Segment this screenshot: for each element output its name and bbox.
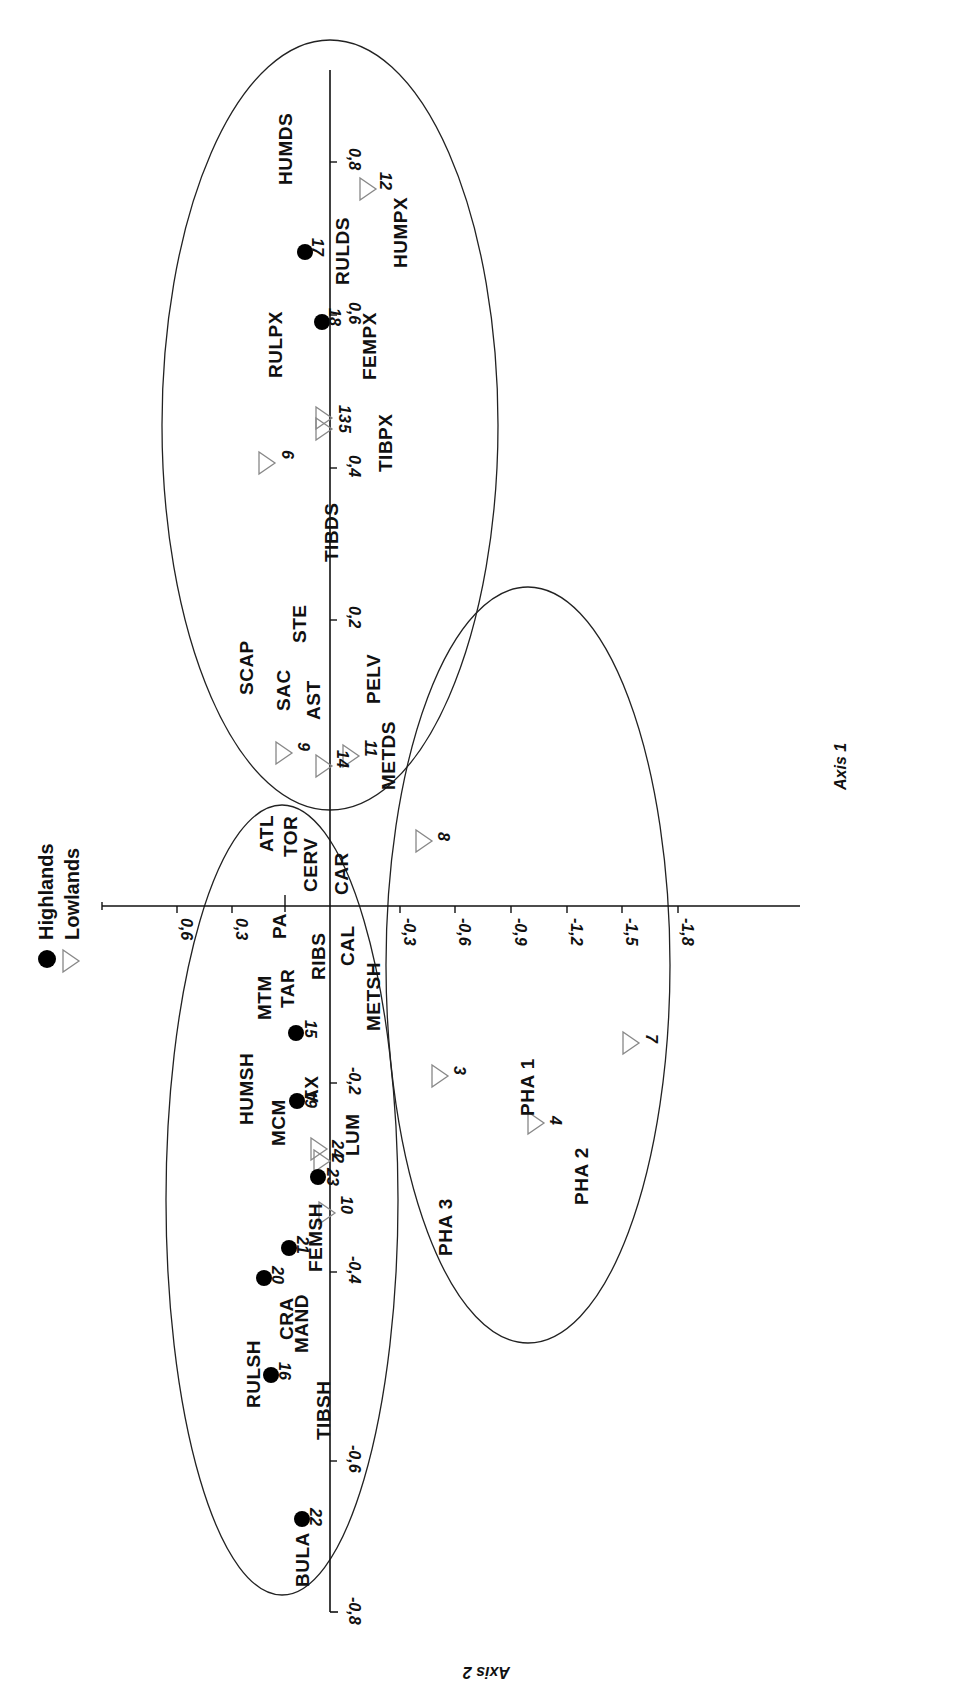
var-label-cal: CAL — [338, 925, 357, 966]
var-label-tibds: TIBDS — [322, 503, 341, 563]
point-12-marker — [360, 178, 376, 200]
tick-x-neg0.9: -0,9 — [512, 918, 528, 946]
point-8-label: 8 — [435, 832, 451, 841]
legend-lowlands-icon — [63, 950, 79, 972]
var-label-femsh: FEMSH — [306, 1203, 325, 1272]
var-label-mcm: MCM — [269, 1099, 288, 1146]
point-5-label: 5 — [336, 424, 352, 433]
tick-x-0.3: 0,3 — [233, 918, 249, 940]
tick-y-0.8: 0,8 — [346, 148, 362, 170]
var-label-lum: LUM — [343, 1113, 362, 1156]
point-6-label: 6 — [279, 450, 295, 459]
legend-highlands-label: Highlands — [36, 843, 56, 940]
point-7-label: 7 — [643, 1034, 659, 1043]
var-label-mand: MAND — [292, 1294, 311, 1353]
point-4-label: 4 — [547, 1116, 563, 1125]
var-label-humsh: HUMSH — [237, 1053, 256, 1125]
tick-x-0.6: 0,6 — [178, 918, 194, 940]
var-label-atl: ATL — [257, 815, 276, 852]
var-label-tar: TAR — [278, 969, 297, 1008]
legend-highlands-icon — [38, 950, 56, 968]
var-label-rulpx: RULPX — [266, 311, 285, 378]
var-label-metds: METDS — [379, 721, 398, 790]
point-13-label: 13 — [336, 405, 352, 423]
point-3-marker — [432, 1065, 448, 1087]
point-6-marker — [259, 452, 275, 474]
point-17-label: 17 — [309, 238, 325, 256]
var-label-ast: AST — [304, 681, 323, 721]
point-8-marker — [416, 830, 432, 852]
tick-y-neg0.8: -0,8 — [346, 1597, 362, 1625]
point-9-marker — [276, 742, 292, 764]
var-label-sac: SAC — [274, 669, 293, 711]
point-12-label: 12 — [377, 172, 393, 190]
axis1-title: Axis 1 — [833, 743, 849, 790]
plot-canvas — [0, 0, 960, 1704]
var-label-pelv: PELV — [364, 654, 383, 704]
axis2-title: Axis 2 — [463, 1664, 510, 1680]
var-label-pha3: PHA 3 — [436, 1198, 455, 1256]
tick-y-0.2: 0,2 — [346, 606, 362, 628]
point-20-label: 20 — [269, 1266, 285, 1284]
var-label-fempx: FEMPX — [360, 312, 379, 380]
tick-x-neg1.2: -1,2 — [568, 918, 584, 946]
point-11-label: 11 — [362, 740, 378, 757]
tick-x-neg1.8: -1,8 — [679, 918, 695, 946]
point-3-label: 3 — [451, 1066, 467, 1075]
point-14-label: 14 — [334, 750, 350, 768]
var-label-ax: AX — [302, 1076, 321, 1103]
var-label-humds: HUMDS — [276, 113, 295, 185]
var-label-ste: STE — [290, 605, 309, 643]
point-10-label: 10 — [338, 1196, 354, 1214]
tick-x-neg0.3: -0,3 — [401, 918, 417, 946]
tick-y-neg0.6: -0,6 — [346, 1445, 362, 1473]
var-label-ribs: RIBS — [309, 933, 328, 980]
var-label-pa: PA — [270, 913, 289, 939]
point-23-label: 23 — [324, 1168, 340, 1186]
var-label-tibsh: TIBSH — [314, 1381, 333, 1441]
var-label-car: CAR — [332, 852, 351, 895]
var-label-mtm: MTM — [255, 975, 274, 1020]
var-label-tibpx: TIBPX — [376, 414, 395, 472]
tick-y-neg0.2: -0,2 — [346, 1067, 362, 1095]
var-label-pha1: PHA 1 — [518, 1058, 537, 1116]
tick-y-0.4: 0,4 — [346, 455, 362, 477]
point-15-label: 15 — [302, 1020, 318, 1038]
var-label-humpx: HUMPX — [391, 197, 410, 268]
var-label-tor: TOR — [281, 816, 300, 857]
ellipse-lowlands-group — [386, 587, 670, 1343]
var-label-cerv: CERV — [301, 838, 320, 892]
point-7-marker — [623, 1032, 639, 1054]
tick-x-neg0.6: -0,6 — [456, 918, 472, 946]
point-16-label: 16 — [276, 1362, 292, 1380]
var-label-pha2: PHA 2 — [572, 1147, 591, 1205]
var-label-scap: SCAP — [237, 640, 256, 695]
var-label-metsh: METSH — [364, 962, 383, 1031]
legend-lowlands-label: Lowlands — [62, 848, 82, 940]
var-label-bula: BULA — [293, 1532, 312, 1587]
tick-y-neg0.4: -0,4 — [346, 1256, 362, 1284]
point-22-label: 22 — [307, 1508, 323, 1526]
tick-x-neg1.5: -1,5 — [623, 918, 639, 946]
point-18-label: 18 — [326, 308, 342, 326]
point-9-label: 9 — [295, 742, 311, 751]
var-label-rulds: RULDS — [333, 217, 352, 285]
scatter-plot: Highlands Lowlands Axis 1 Axis 2 0,8 0,6… — [0, 0, 960, 1704]
var-label-rulsh: RULSH — [244, 1340, 263, 1408]
